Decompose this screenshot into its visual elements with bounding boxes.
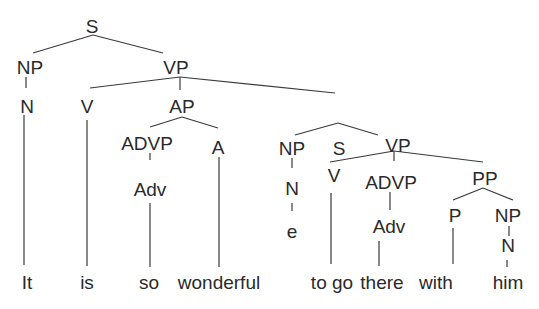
- node-s-inner: S: [333, 138, 346, 159]
- node-adv-2: Adv: [373, 216, 406, 237]
- node-n-subject: N: [20, 96, 34, 117]
- node-n-inner: N: [285, 178, 299, 199]
- node-v-main: V: [81, 96, 94, 117]
- node-advp-1: ADVP: [121, 133, 173, 154]
- node-p: P: [449, 205, 462, 226]
- word-him: him: [493, 272, 524, 293]
- node-ap: AP: [169, 96, 194, 117]
- syntax-tree-diagram: S NP VP N V AP ADVP A Adv S NP N e VP V …: [0, 0, 539, 309]
- node-vp-inner: VP: [385, 135, 410, 156]
- node-adv-1: Adv: [134, 179, 167, 200]
- node-a: A: [212, 137, 225, 158]
- word-to-go: to go: [311, 272, 353, 293]
- node-np-object: NP: [495, 205, 521, 226]
- node-n-object: N: [501, 235, 515, 256]
- node-advp-2: ADVP: [365, 172, 417, 193]
- word-it: It: [22, 272, 33, 293]
- node-np-subject: NP: [17, 57, 43, 78]
- node-np-inner: NP: [279, 138, 305, 159]
- sentence-words: It is so wonderful to go there with him: [22, 272, 524, 293]
- tree-edges: [24, 35, 513, 267]
- node-pp: PP: [472, 168, 497, 189]
- word-is: is: [80, 272, 94, 293]
- word-so: so: [139, 272, 159, 293]
- tree-nodes: S NP VP N V AP ADVP A Adv S NP N e VP V …: [17, 16, 521, 256]
- node-s-root: S: [86, 16, 99, 37]
- node-v-inner: V: [328, 165, 341, 186]
- node-vp-main: VP: [163, 57, 188, 78]
- word-there: there: [360, 272, 403, 293]
- word-wonderful: wonderful: [177, 272, 260, 293]
- node-empty-e: e: [287, 221, 298, 242]
- word-with: with: [418, 272, 453, 293]
